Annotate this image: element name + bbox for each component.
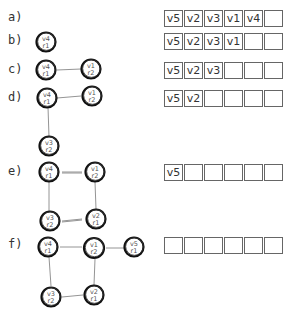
stack-array-f — [164, 237, 284, 254]
array-cell: v3 — [204, 62, 223, 79]
array-cell: v3 — [204, 33, 223, 50]
svg-text:r2: r2 — [88, 69, 95, 77]
array-cell: v5 — [164, 164, 183, 181]
array-cell — [204, 90, 223, 107]
node-e-v2: v2 r1 — [87, 210, 106, 229]
svg-text:r1: r1 — [131, 247, 138, 255]
array-cell — [264, 237, 283, 254]
array-cell — [224, 237, 243, 254]
array-cell — [264, 62, 283, 79]
array-cell — [264, 33, 283, 50]
node-c-v1: v1 r2 — [82, 60, 101, 79]
array-cell: v5 — [164, 62, 183, 79]
array-cell — [264, 164, 283, 181]
node-f-v3: v3 r2 — [42, 288, 61, 307]
node-d-v1: v1 r2 — [83, 87, 102, 106]
svg-text:r1: r1 — [43, 42, 50, 50]
graph-diagram: v4 r1 v4 r1 v1 r2 v4 r1 v1 r2 — [0, 0, 160, 318]
svg-text:r2: r2 — [48, 297, 55, 305]
array-cell: v2 — [184, 62, 203, 79]
array-cell — [244, 90, 263, 107]
array-cell: v2 — [184, 10, 203, 27]
array-cell — [204, 237, 223, 254]
array-cell: v1 — [224, 10, 243, 27]
array-cell — [264, 90, 283, 107]
node-f-v5: v5 r1 — [125, 238, 144, 257]
array-cell: v4 — [244, 10, 263, 27]
array-cell — [244, 62, 263, 79]
node-d-v3: v3 r2 — [40, 137, 59, 156]
node-e-v1: v1 r2 — [86, 163, 105, 182]
array-cell: v2 — [184, 90, 203, 107]
node-b-v4: v4 r1 — [37, 33, 56, 52]
array-cell — [164, 237, 183, 254]
node-e-v4: v4 r1 — [40, 163, 59, 182]
array-cell — [224, 90, 243, 107]
stack-array-d: v5 v2 — [164, 90, 284, 107]
svg-text:r2: r2 — [47, 221, 54, 229]
svg-text:r1: r1 — [46, 172, 53, 180]
node-c-v4: v4 r1 — [37, 61, 56, 80]
array-cell — [244, 33, 263, 50]
array-cell: v3 — [204, 10, 223, 27]
array-cell — [204, 164, 223, 181]
svg-text:r1: r1 — [44, 98, 51, 106]
svg-text:r2: r2 — [92, 172, 99, 180]
node-e-v3: v3 r2 — [41, 212, 60, 231]
node-f-v4: v4 r1 — [39, 238, 58, 257]
array-cell: v5 — [164, 10, 183, 27]
svg-text:r1: r1 — [93, 219, 100, 227]
svg-text:r1: r1 — [91, 295, 98, 303]
array-cell: v1 — [224, 33, 243, 50]
svg-text:r2: r2 — [89, 96, 96, 104]
array-cell: v5 — [164, 33, 183, 50]
array-cell — [224, 164, 243, 181]
stack-array-e: v5 — [164, 164, 284, 181]
array-cell — [244, 164, 263, 181]
array-cell — [224, 62, 243, 79]
svg-text:r1: r1 — [43, 70, 50, 78]
array-cell — [184, 237, 203, 254]
node-f-v2: v2 r1 — [85, 286, 104, 305]
svg-text:r1: r1 — [45, 247, 52, 255]
stack-array-b: v5 v2 v3 v1 — [164, 33, 284, 50]
stack-array-c: v5 v2 v3 — [164, 62, 284, 79]
node-f-v1: v1 r2 — [84, 238, 104, 258]
array-cell — [184, 164, 203, 181]
graph-nodes: v4 r1 v4 r1 v1 r2 v4 r1 v1 r2 — [37, 33, 144, 307]
svg-text:r2: r2 — [46, 146, 53, 154]
array-cell — [244, 237, 263, 254]
stack-array-a: v5 v2 v3 v1 v4 — [164, 10, 284, 27]
array-cell — [264, 10, 283, 27]
svg-text:r2: r2 — [91, 248, 98, 256]
array-cell: v5 — [164, 90, 183, 107]
array-cell: v2 — [184, 33, 203, 50]
node-d-v4: v4 r1 — [38, 89, 57, 108]
